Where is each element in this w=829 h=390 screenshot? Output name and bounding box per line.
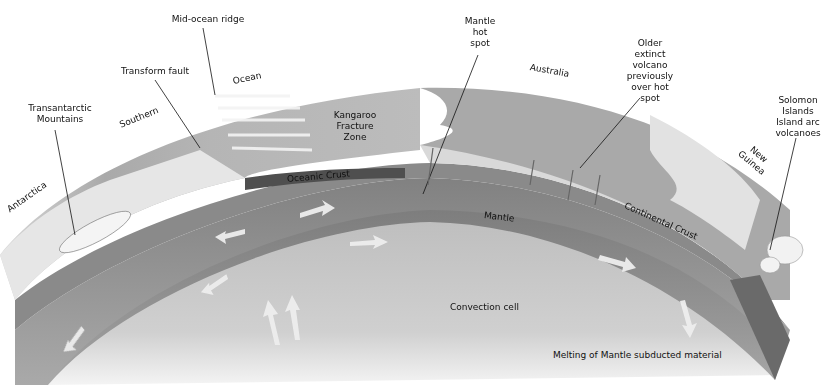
label-mid-ocean-ridge: Mid-ocean ridge xyxy=(163,14,253,25)
label-mantle-hot-spot: Mantle hot spot xyxy=(455,16,505,49)
label-melting: Melting of Mantle subducted material xyxy=(553,350,722,360)
label-solomon-islands: Solomon Islands Island arc volcanoes xyxy=(767,95,829,139)
label-kangaroo-fracture-zone: Kangaroo Fracture Zone xyxy=(320,110,390,143)
label-convection-cell: Convection cell xyxy=(450,302,519,312)
label-transform-fault: Transform fault xyxy=(110,66,200,77)
label-transantarctic-mountains: Transantarctic Mountains xyxy=(15,103,105,125)
plate-tectonics-diagram xyxy=(0,0,829,390)
label-older-extinct-volcano: Older extinct volcano previously over ho… xyxy=(620,38,680,104)
